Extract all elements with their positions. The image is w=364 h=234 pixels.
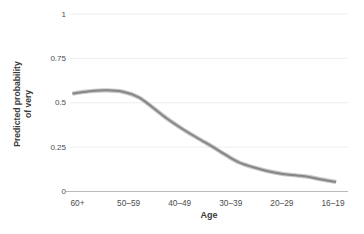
y-tick-label: 0.75 (50, 54, 66, 63)
prediction-line (72, 90, 336, 182)
y-tick-label: 0 (62, 187, 67, 196)
y-tick-label: 0.25 (50, 143, 66, 152)
probability-curve (72, 90, 336, 182)
y-axis-tick-labels: 10.750.50.250 (50, 10, 66, 197)
y-tick-label: 0.5 (55, 98, 67, 107)
line-chart: 10.750.50.250 60+50–5940–4930–3920–2916–… (0, 0, 364, 234)
x-axis-tick-labels: 60+50–5940–4930–3920–2916–19 (70, 198, 344, 208)
confidence-band (72, 90, 336, 182)
y-tick-label: 1 (62, 10, 67, 19)
y-axis-title-line2: of very (23, 90, 33, 118)
y-axis-title-line1: Predicted probability (12, 61, 22, 147)
x-axis-title: Age (200, 210, 217, 220)
x-tick-label: 40–49 (168, 198, 191, 208)
x-tick-label: 60+ (70, 198, 84, 208)
x-tick-label: 30–39 (219, 198, 242, 208)
chart-figure: 10.750.50.250 60+50–5940–4930–3920–2916–… (0, 0, 364, 234)
x-tick-label: 50–59 (117, 198, 140, 208)
x-tick-label: 16–19 (321, 198, 344, 208)
x-tick-label: 20–29 (270, 198, 293, 208)
gridlines (66, 14, 348, 192)
